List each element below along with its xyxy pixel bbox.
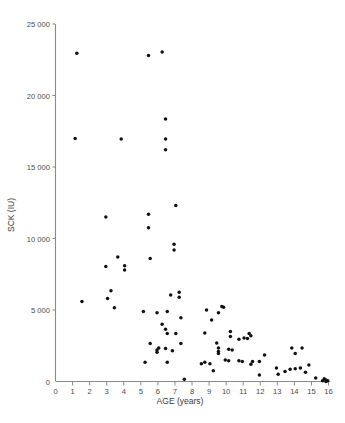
data-point — [212, 369, 216, 373]
x-tick-label-15: 15 — [307, 387, 315, 396]
x-tick-label-5: 5 — [139, 387, 143, 396]
x-tick-label-4: 4 — [122, 387, 126, 396]
y-tick-label-1: 5 000 — [31, 306, 50, 315]
data-point — [119, 137, 123, 141]
data-point — [293, 367, 297, 371]
data-point — [123, 268, 127, 272]
data-point — [172, 248, 176, 252]
data-point — [258, 360, 262, 364]
data-point — [263, 353, 267, 357]
x-tick-label-0: 0 — [53, 387, 57, 396]
data-point — [116, 255, 120, 259]
data-point — [157, 346, 161, 350]
data-point — [109, 289, 113, 293]
data-point — [205, 308, 209, 312]
data-point — [104, 215, 108, 219]
plot-background — [0, 0, 345, 423]
x-tick-label-16: 16 — [324, 387, 332, 396]
x-tick-label-7: 7 — [173, 387, 177, 396]
data-point — [164, 347, 168, 351]
data-point — [249, 334, 253, 338]
data-point — [172, 242, 176, 246]
x-tick-label-6: 6 — [156, 387, 160, 396]
data-point — [203, 331, 207, 335]
data-point — [164, 137, 168, 141]
data-point — [208, 362, 212, 366]
data-point — [275, 366, 279, 370]
data-point — [217, 346, 221, 350]
data-point — [283, 370, 287, 374]
x-tick-label-3: 3 — [105, 387, 109, 396]
data-point — [217, 311, 221, 315]
y-tick-label-3: 15 000 — [27, 163, 50, 172]
scatter-plot: 05 00010 00015 00020 00025 000 SCK (IU) … — [0, 0, 345, 423]
data-point — [80, 300, 84, 304]
data-point — [249, 363, 253, 367]
y-tick-label-4: 20 000 — [27, 92, 50, 101]
data-point — [324, 380, 328, 384]
data-point — [288, 368, 292, 372]
data-point — [304, 370, 308, 374]
data-point — [123, 264, 127, 268]
data-point — [174, 204, 178, 208]
x-tick-label-12: 12 — [256, 387, 264, 396]
data-point — [314, 376, 318, 380]
data-point — [164, 328, 168, 332]
x-tick-label-9: 9 — [207, 387, 211, 396]
data-point — [147, 54, 151, 58]
data-point — [241, 360, 245, 364]
data-point — [75, 52, 79, 56]
data-point — [155, 350, 159, 354]
data-point — [73, 137, 77, 141]
data-point — [183, 378, 187, 382]
data-point — [148, 342, 152, 346]
data-point — [104, 265, 108, 269]
data-point — [321, 379, 325, 383]
data-point — [229, 330, 233, 334]
data-point — [307, 363, 311, 367]
x-tick-label-2: 2 — [88, 387, 92, 396]
data-point — [164, 148, 168, 152]
x-tick-label-11: 11 — [239, 387, 247, 396]
data-point — [177, 295, 181, 299]
data-point — [246, 337, 250, 341]
data-point — [113, 306, 117, 310]
x-tick-label-1: 1 — [70, 387, 74, 396]
data-point — [276, 373, 280, 377]
data-point — [179, 316, 183, 320]
data-point — [164, 117, 168, 121]
data-point — [227, 348, 231, 352]
data-point — [227, 359, 231, 363]
data-point — [299, 366, 303, 370]
x-tick-label-8: 8 — [190, 387, 194, 396]
data-point — [148, 257, 152, 261]
data-point — [230, 348, 234, 352]
y-tick-label-0: 0 — [46, 378, 50, 387]
chart-figure: 05 00010 00015 00020 00025 000 SCK (IU) … — [0, 0, 345, 423]
x-tick-label-13: 13 — [273, 387, 281, 396]
data-point — [166, 310, 170, 314]
data-point — [160, 323, 164, 327]
y-tick-label-2: 10 000 — [27, 235, 50, 244]
data-point — [290, 346, 294, 350]
data-point — [200, 362, 204, 366]
data-point — [174, 332, 178, 336]
x-axis-title: AGE (years) — [157, 396, 204, 406]
data-point — [160, 50, 164, 54]
data-point — [179, 342, 183, 346]
data-point — [147, 226, 151, 230]
data-point — [237, 359, 241, 363]
data-point — [203, 360, 207, 364]
data-point — [224, 358, 228, 362]
data-point — [142, 310, 146, 314]
data-point — [237, 338, 241, 342]
data-point — [177, 290, 181, 294]
data-point — [106, 297, 110, 301]
data-point — [166, 360, 170, 364]
data-point — [217, 352, 221, 356]
y-axis-title: SCK (IU) — [6, 198, 16, 232]
data-point — [222, 305, 226, 309]
data-point — [258, 373, 262, 377]
data-point — [166, 332, 170, 336]
data-point — [300, 346, 304, 350]
